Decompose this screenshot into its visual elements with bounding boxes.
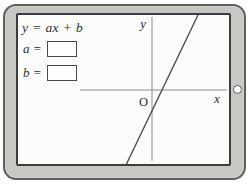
y-axis-label: y bbox=[138, 16, 146, 31]
page-background: y = ax + b a = b = y x O bbox=[0, 0, 251, 190]
graph-canvas: y x O bbox=[18, 15, 229, 164]
tablet-frame: y = ax + b a = b = y x O bbox=[3, 4, 246, 180]
x-axis-label: x bbox=[213, 91, 220, 106]
origin-label: O bbox=[139, 95, 148, 109]
tablet-side-button[interactable] bbox=[233, 85, 242, 94]
app-screen: y = ax + b a = b = y x O bbox=[16, 13, 231, 166]
